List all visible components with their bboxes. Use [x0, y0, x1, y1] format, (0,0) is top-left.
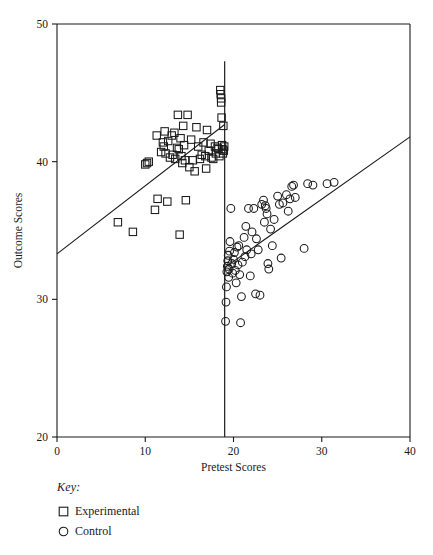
data-point-experimental — [154, 195, 161, 202]
square-marker-icon — [57, 505, 70, 518]
control-fit — [225, 137, 410, 268]
data-point-experimental — [179, 159, 186, 166]
data-point-control — [260, 218, 268, 226]
y-axis-label: Outcome Scores — [12, 192, 24, 268]
data-point-control — [222, 317, 230, 325]
y-tick-label: 50 — [37, 18, 49, 30]
data-point-control — [254, 246, 262, 254]
data-point-control — [232, 279, 240, 287]
data-point-control — [227, 205, 235, 213]
data-point-experimental — [174, 111, 181, 118]
data-point-experimental — [207, 140, 214, 147]
data-point-control — [291, 194, 299, 202]
data-point-experimental — [176, 231, 183, 238]
data-point-experimental — [114, 219, 121, 226]
y-tick-label: 30 — [37, 293, 49, 305]
legend-item-control: Control — [57, 524, 112, 539]
data-point-experimental — [182, 197, 189, 204]
data-point-experimental — [184, 111, 191, 118]
data-point-control — [238, 293, 246, 301]
scatter-plot-figure: 20304050010203040 Pretest Scores Outcome… — [0, 0, 433, 555]
data-point-experimental — [179, 122, 186, 129]
legend-label-control: Control — [75, 524, 112, 539]
data-point-control — [274, 192, 282, 200]
data-point-control — [304, 180, 312, 188]
x-axis-label: Pretest Scores — [201, 461, 266, 473]
data-point-control — [284, 207, 292, 215]
legend-heading: Key: — [57, 480, 80, 495]
legend-label-experimental: Experimental — [75, 504, 140, 519]
data-point-experimental — [193, 124, 200, 131]
data-point-experimental — [187, 136, 194, 143]
data-point-control — [248, 228, 256, 236]
data-point-control — [240, 233, 248, 241]
x-tick-label: 30 — [316, 445, 328, 457]
data-point-control — [270, 216, 278, 224]
data-point-control — [253, 235, 261, 243]
data-point-experimental — [153, 132, 160, 139]
data-point-control — [267, 225, 275, 233]
data-point-control — [256, 291, 264, 299]
data-point-control — [264, 260, 272, 268]
data-point-experimental — [161, 128, 168, 135]
data-point-experimental — [151, 206, 158, 213]
data-point-control — [235, 242, 243, 250]
legend-item-experimental: Experimental — [57, 504, 140, 519]
data-point-experimental — [202, 165, 209, 172]
data-point-control — [263, 210, 271, 218]
x-tick-label: 10 — [140, 445, 152, 457]
axis-tick-labels: 20304050010203040 — [37, 18, 417, 457]
data-point-control — [265, 265, 273, 273]
data-point-control — [323, 180, 331, 188]
data-point-control — [277, 254, 285, 262]
x-tick-label: 40 — [404, 445, 416, 457]
data-point-control — [268, 242, 276, 250]
circle-marker-icon — [57, 525, 70, 538]
x-tick-label: 20 — [228, 445, 240, 457]
data-point-control — [330, 178, 338, 186]
data-point-control — [309, 181, 317, 189]
data-point-control — [223, 283, 231, 291]
data-point-control — [252, 290, 260, 298]
y-tick-label: 20 — [37, 431, 49, 443]
data-point-control — [300, 244, 308, 252]
plot-canvas: 20304050010203040 Pretest Scores Outcome… — [0, 0, 433, 555]
data-point-experimental — [203, 126, 210, 133]
axes — [57, 24, 410, 437]
data-point-control — [290, 181, 298, 189]
data-point-experimental — [189, 157, 196, 164]
x-tick-label: 0 — [54, 445, 60, 457]
data-point-experimental — [164, 198, 171, 205]
data-point-control — [237, 319, 245, 327]
series-experimental-points — [114, 86, 228, 238]
data-point-control — [236, 271, 244, 279]
data-point-control — [226, 238, 234, 246]
data-point-control — [262, 205, 270, 213]
data-point-control — [242, 222, 250, 230]
data-point-experimental — [129, 228, 136, 235]
data-point-control — [250, 205, 258, 213]
data-point-control — [222, 298, 230, 306]
data-point-control — [246, 272, 254, 280]
y-tick-label: 40 — [37, 156, 49, 168]
axis-ticks — [52, 24, 410, 442]
